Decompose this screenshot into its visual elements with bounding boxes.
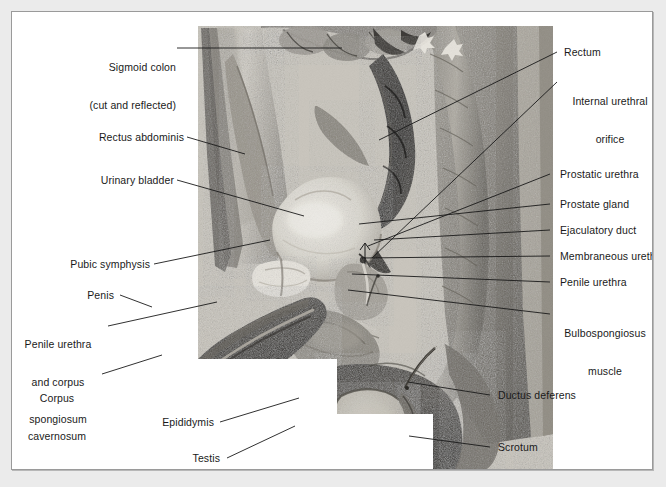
label-internal-urethral-orifice: Internal urethral orifice — [560, 70, 653, 170]
label-pubic-symphysis: Pubic symphysis — [26, 258, 150, 271]
label-ejaculatory-duct: Ejaculatory duct — [560, 224, 653, 237]
label-prostate-gland: Prostate gland — [560, 198, 653, 211]
label-penis: Penis — [26, 289, 114, 302]
label-membraneous-urethra: Membraneous urethra — [560, 250, 653, 263]
label-sigmoid-colon-line1: Sigmoid colon — [30, 61, 176, 74]
label-sigmoid-colon-line2: (cut and reflected) — [30, 99, 176, 112]
label-corpus-cavernosum-line1: Corpus — [16, 392, 98, 405]
label-internal-urethral-orifice-line1: Internal urethral — [560, 95, 653, 108]
label-rectum: Rectum — [564, 46, 653, 59]
plate-panel: Sigmoid colon (cut and reflected) Rectus… — [11, 11, 653, 470]
label-bulbospongiosus-muscle: Bulbospongiosus muscle — [552, 302, 653, 402]
label-internal-urethral-orifice-line2: orifice — [560, 133, 653, 146]
label-bulbospongiosus-line2: muscle — [552, 365, 653, 378]
label-corpus-cavernosum-line2: cavernosum — [16, 430, 98, 443]
label-sigmoid-colon: Sigmoid colon (cut and reflected) — [30, 36, 176, 136]
leader-corpus-cavernosum — [102, 355, 162, 374]
label-testis: Testis — [142, 452, 220, 465]
label-penile-urethra-line1: Penile urethra — [12, 338, 104, 351]
label-prostatic-urethra: Prostatic urethra — [560, 168, 653, 181]
label-scrotum: Scrotum — [498, 441, 598, 454]
leader-penis — [120, 295, 152, 307]
label-penile-urethra: Penile urethra — [560, 276, 653, 289]
label-rectus-abdominis: Rectus abdominis — [36, 131, 184, 144]
label-ductus-deferens: Ductus deferens — [498, 389, 618, 402]
label-urinary-bladder: Urinary bladder — [36, 174, 174, 187]
label-corpus-cavernosum: Corpus cavernosum — [16, 367, 98, 467]
anatomy-plate: Sigmoid colon (cut and reflected) Rectus… — [0, 0, 666, 487]
label-bulbospongiosus-line1: Bulbospongiosus — [552, 327, 653, 340]
label-epididymis: Epididymis — [120, 416, 214, 429]
